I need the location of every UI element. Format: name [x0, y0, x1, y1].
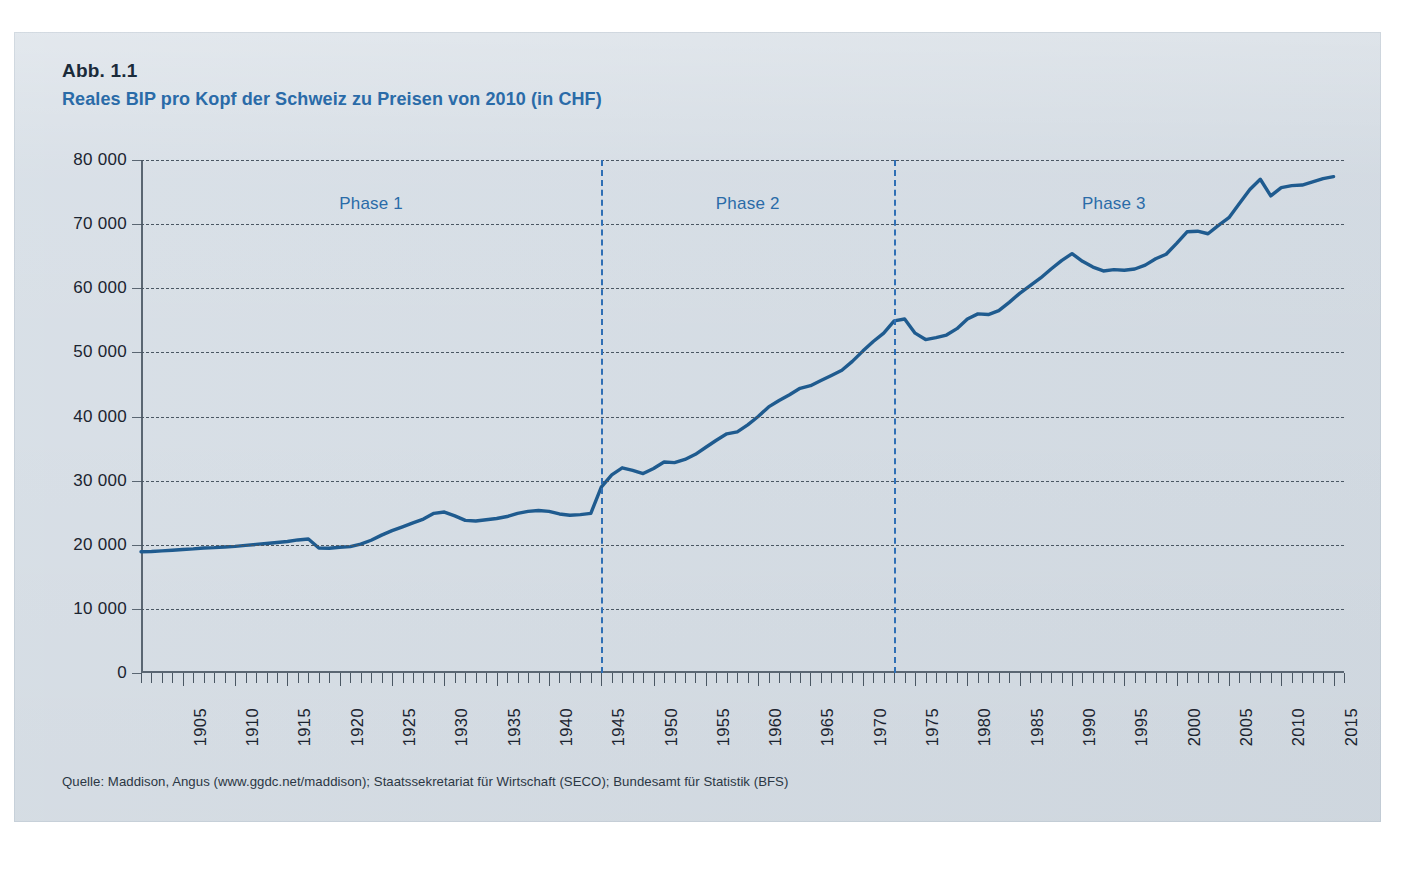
x-axis-tick-minor: [842, 673, 843, 683]
x-axis-tick-major: [1334, 673, 1335, 686]
figure-number: Abb. 1.1: [62, 60, 138, 82]
x-axis-tick-major: [1072, 673, 1073, 686]
x-axis-tick-major: [235, 673, 236, 686]
x-axis-tick-label: 1930: [452, 708, 471, 746]
x-axis-tick-minor: [570, 673, 571, 683]
x-axis-tick-minor: [350, 673, 351, 683]
x-axis-tick-minor: [308, 673, 309, 683]
x-axis-tick-label: 1995: [1132, 708, 1151, 746]
y-axis-labels: 010 00020 00030 00040 00050 00060 00070 …: [14, 150, 141, 695]
x-axis-tick-label: 1970: [871, 708, 890, 746]
x-axis-tick-major: [1281, 673, 1282, 686]
figure-page: Abb. 1.1 Reales BIP pro Kopf der Schweiz…: [0, 0, 1407, 875]
x-axis-tick-minor: [371, 673, 372, 683]
x-axis-tick-major: [810, 673, 811, 686]
x-axis-tick-minor: [769, 673, 770, 683]
x-axis-tick-minor: [1218, 673, 1219, 683]
x-axis-tick-major: [1229, 673, 1230, 686]
x-axis-tick-major: [444, 673, 445, 686]
phase-label: Phase 3: [1082, 194, 1146, 214]
x-axis-tick-major: [654, 673, 655, 686]
gridline-y: [141, 288, 1344, 289]
x-axis-tick-minor: [193, 673, 194, 683]
x-axis-tick-label: 1950: [662, 708, 681, 746]
x-axis-tick-minor: [361, 673, 362, 683]
x-axis-tick-minor: [256, 673, 257, 683]
x-axis-tick-label: 1940: [557, 708, 576, 746]
x-axis-tick-label: 2015: [1342, 708, 1361, 746]
phase-divider-line: [601, 160, 603, 673]
x-axis-tick-label: 1925: [400, 708, 419, 746]
x-axis-tick-minor: [1166, 673, 1167, 683]
y-axis-tick: [132, 609, 141, 610]
x-axis-tick-minor: [675, 673, 676, 683]
x-axis-tick-minor: [1208, 673, 1209, 683]
x-axis-tick-minor: [476, 673, 477, 683]
x-axis-tick-minor: [455, 673, 456, 683]
x-axis-tick-minor: [727, 673, 728, 683]
x-axis-tick-minor: [434, 673, 435, 683]
x-axis-tick-minor: [633, 673, 634, 683]
y-axis-tick-label: 40 000: [73, 407, 127, 427]
x-axis-tick-minor: [1250, 673, 1251, 683]
x-axis-tick-label: 1990: [1080, 708, 1099, 746]
x-axis-tick-label: 1955: [714, 708, 733, 746]
x-axis-tick-minor: [852, 673, 853, 683]
y-axis-tick-label: 30 000: [73, 471, 127, 491]
x-axis-tick-minor: [1009, 673, 1010, 683]
x-axis-tick-minor: [1323, 673, 1324, 683]
gridline-y: [141, 481, 1344, 482]
figure-panel: Abb. 1.1 Reales BIP pro Kopf der Schweiz…: [14, 32, 1381, 822]
x-axis-tick-minor: [162, 673, 163, 683]
x-axis-tick-minor: [1271, 673, 1272, 683]
x-axis-tick-major: [549, 673, 550, 686]
x-axis-tick-label: 1960: [766, 708, 785, 746]
x-axis-tick-minor: [539, 673, 540, 683]
x-axis-tick-minor: [151, 673, 152, 683]
x-axis-tick-minor: [486, 673, 487, 683]
x-axis-tick-major: [497, 673, 498, 686]
y-axis-tick: [132, 673, 141, 674]
x-axis-tick-minor: [664, 673, 665, 683]
x-axis-tick-minor: [643, 673, 644, 683]
x-axis-tick-major: [601, 673, 602, 686]
y-axis-tick-label: 20 000: [73, 535, 127, 555]
x-axis-tick-major: [1124, 673, 1125, 686]
x-axis-tick-label: 1920: [348, 708, 367, 746]
x-axis-tick-minor: [591, 673, 592, 683]
x-axis-tick-minor: [622, 673, 623, 683]
x-axis-tick-minor: [1239, 673, 1240, 683]
gridline-y: [141, 352, 1344, 353]
x-axis-tick-minor: [277, 673, 278, 683]
y-axis-tick-label: 70 000: [73, 214, 127, 234]
x-axis-tick-minor: [1198, 673, 1199, 683]
gridline-y: [141, 224, 1344, 225]
gridline-y: [141, 609, 1344, 610]
x-axis-tick-minor: [214, 673, 215, 683]
x-axis-tick-minor: [1114, 673, 1115, 683]
x-axis-tick-minor: [1313, 673, 1314, 683]
x-axis-tick-minor: [1145, 673, 1146, 683]
x-axis-tick-minor: [936, 673, 937, 683]
x-axis-tick-minor: [716, 673, 717, 683]
y-axis-tick: [132, 224, 141, 225]
y-axis-tick: [132, 417, 141, 418]
x-axis-tick-minor: [518, 673, 519, 683]
x-axis-tick-label: 1975: [923, 708, 942, 746]
x-axis-tick-minor: [1041, 673, 1042, 683]
x-axis-tick-minor: [612, 673, 613, 683]
x-axis-tick-minor: [1292, 673, 1293, 683]
x-axis-tick-minor: [1187, 673, 1188, 683]
x-axis-tick-minor: [999, 673, 1000, 683]
x-axis-tick-minor: [1103, 673, 1104, 683]
x-axis-tick-minor: [905, 673, 906, 683]
y-axis-tick: [132, 352, 141, 353]
x-axis-tick-major: [287, 673, 288, 686]
x-axis-tick-label: 1980: [975, 708, 994, 746]
x-axis-tick-minor: [988, 673, 989, 683]
x-axis-tick-minor: [800, 673, 801, 683]
x-axis-tick-label: 1935: [505, 708, 524, 746]
chart-plot-area: Phase 1Phase 2Phase 3: [141, 160, 1344, 673]
x-axis-tick-minor: [1093, 673, 1094, 683]
gridline-y: [141, 160, 1344, 161]
